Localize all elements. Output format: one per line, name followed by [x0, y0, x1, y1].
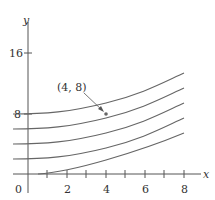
y-tick-label-16: 16	[9, 47, 23, 60]
chart: y x 16 8 0 2 4 6 8 (4, 8)	[0, 0, 215, 200]
x-tick-label-8: 8	[181, 183, 188, 196]
x-tick-label-6: 6	[142, 183, 149, 196]
point-annotation-label: (4, 8)	[57, 81, 87, 94]
curve-5	[38, 133, 184, 174]
point-marker	[104, 112, 108, 116]
curve-family	[13, 73, 184, 174]
x-tick-label-4: 4	[103, 183, 110, 196]
x-tick-label-2: 2	[64, 183, 71, 196]
curve-1	[13, 73, 184, 114]
y-tick-label-8: 8	[14, 108, 21, 121]
curve-4	[13, 118, 184, 159]
y-axis-label: y	[22, 14, 30, 27]
origin-label: 0	[15, 183, 22, 196]
x-axis-label: x	[203, 168, 210, 181]
